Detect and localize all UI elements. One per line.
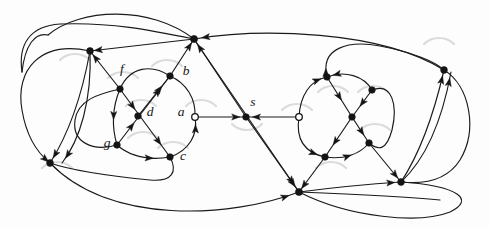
right-cluster-top	[324, 74, 331, 81]
vertex-label-d: d	[147, 104, 154, 119]
right-cluster-lower-right	[366, 140, 373, 147]
vertex-d	[135, 113, 142, 120]
vertex-f	[117, 86, 124, 93]
lower-left-hub	[47, 160, 54, 167]
vertex-c	[167, 154, 174, 161]
right-cluster-bottom	[322, 154, 329, 161]
vertex-label-a: a	[178, 104, 185, 119]
right-cluster-upper-right	[369, 87, 376, 94]
vertex-b	[167, 73, 174, 80]
vertex-s	[243, 114, 250, 121]
graph-canvas: fbdagcs	[0, 0, 489, 228]
right-upper-hub	[441, 67, 448, 74]
lower-right-hub	[398, 179, 405, 186]
vertex-label-g: g	[104, 135, 111, 150]
right-cluster-center	[349, 114, 356, 121]
graph-diagram: fbdagcs	[0, 0, 489, 228]
left-upper-hub	[87, 48, 94, 55]
right-cluster-entry	[296, 114, 303, 121]
vertex-a	[192, 114, 199, 121]
bottom-center-hub	[295, 188, 302, 195]
vertex-label-s: s	[250, 94, 255, 109]
vertex-label-b: b	[183, 63, 190, 78]
top-center-hub	[190, 35, 197, 42]
vertex-g	[114, 142, 121, 149]
vertex-label-c: c	[180, 148, 186, 163]
